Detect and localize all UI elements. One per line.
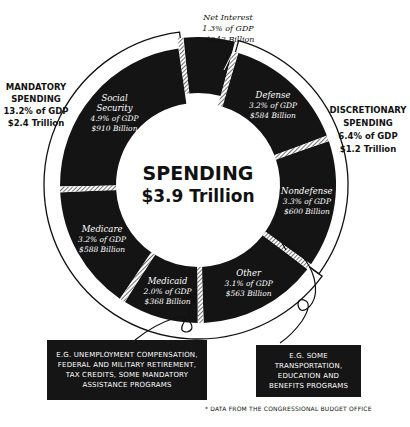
- note-mandatory-other: E.G. UNEMPLOYMENT COMPENSATION, FEDERAL …: [47, 340, 207, 400]
- medicaid-pct: 2.0% of GDP: [143, 287, 193, 296]
- defense-name: Defense: [255, 90, 291, 100]
- segment-divider: [60, 188, 116, 190]
- center-total: $3.9 Trillion: [141, 186, 254, 206]
- social-security-name: Social: [101, 93, 127, 103]
- other-name: Other: [236, 268, 262, 278]
- medicaid-name: Medicaid: [147, 276, 188, 286]
- footnote: * DATA FROM THE CONGRESSIONAL BUDGET OFF…: [205, 405, 372, 412]
- defense-pct: 3.2% of GDP: [249, 101, 298, 110]
- net-interest-name: Net Interest: [202, 13, 253, 22]
- discretionary-amount: $1.2 Trillion: [340, 144, 397, 154]
- medicaid-amount: $368 Billion: [145, 297, 191, 306]
- discretionary-title-2: SPENDING: [343, 118, 393, 128]
- net-interest-amount: $242 Billion: [206, 35, 255, 44]
- social-security-pct: 4.9% of GDP: [89, 114, 139, 123]
- segment-divider: [200, 267, 201, 323]
- nondefense-amount: $600 Billion: [284, 207, 330, 216]
- medicare-amount: $588 Billion: [79, 245, 125, 254]
- net-interest-pct: 1.3% of GDP: [202, 24, 254, 33]
- note-nondefense: E.G. SOME TRANSPORTATION, EDUCATION AND …: [256, 345, 361, 397]
- mandatory-title-1: MANDATORY: [6, 82, 67, 92]
- medicare-pct: 3.2% of GDP: [78, 235, 127, 244]
- social-security-amount: $910 Billion: [92, 124, 138, 133]
- discretionary-pct: 6.4% of GDP: [338, 131, 397, 141]
- nondefense-name: Nondefense: [280, 186, 333, 196]
- center-title: SPENDING: [143, 162, 254, 184]
- mandatory-pct: 13.2% of GDP: [3, 106, 68, 116]
- mandatory-amount: $2.4 Trillion: [8, 118, 65, 128]
- mandatory-title-2: SPENDING: [11, 94, 61, 104]
- discretionary-title-1: DISCRETIONARY: [329, 105, 407, 115]
- other-pct: 3.1% of GDP: [225, 279, 274, 288]
- other-amount: $563 Billion: [226, 289, 272, 298]
- nondefense-pct: 3.3% of GDP: [283, 197, 332, 206]
- medicare-name: Medicare: [81, 224, 123, 234]
- defense-amount: $584 Billion: [250, 111, 296, 120]
- social-security-name: Security: [96, 103, 132, 113]
